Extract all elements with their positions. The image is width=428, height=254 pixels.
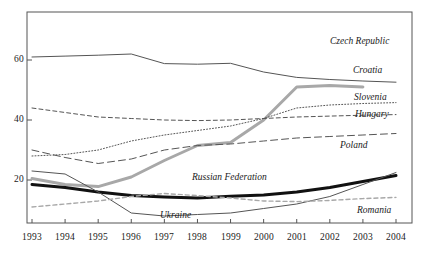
ytick-label-20: 20 <box>2 174 24 184</box>
series-line-czech-republic <box>32 54 396 82</box>
ytick-label-60: 60 <box>2 54 24 64</box>
series-label-romania: Romania <box>357 205 391 215</box>
series-lines <box>32 54 396 216</box>
series-label-ukraine: Ukraine <box>160 210 191 220</box>
series-label-croatia: Croatia <box>353 65 382 75</box>
series-line-hungary <box>32 108 396 121</box>
line-chart: 60 40 20 1993 1994 1995 1996 1997 1998 1… <box>0 0 428 254</box>
xtick-label-2004: 2004 <box>376 232 416 242</box>
series-label-poland: Poland <box>340 140 367 150</box>
ytick-label-40: 40 <box>2 114 24 124</box>
series-label-russian-federation: Russian Federation <box>192 172 267 182</box>
series-line-romania <box>32 194 396 208</box>
series-label-hungary: Hungary <box>355 109 389 119</box>
series-label-czech-republic: Czech Republic <box>330 36 389 46</box>
series-label-slovenia: Slovenia <box>354 92 387 102</box>
